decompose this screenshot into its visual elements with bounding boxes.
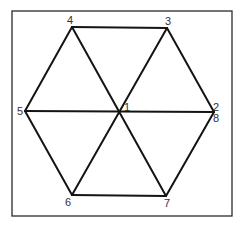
vertex-label-8: 8 xyxy=(213,112,219,124)
edge-2-7 xyxy=(166,112,214,196)
vertex-label-5: 5 xyxy=(17,105,23,117)
edge-4-3 xyxy=(72,27,167,28)
edges-group xyxy=(25,27,214,196)
edge-5-4 xyxy=(25,27,72,111)
vertex-label-3: 3 xyxy=(165,15,171,27)
vertex-label-1: 1 xyxy=(124,101,130,113)
vertex-label-6: 6 xyxy=(65,196,71,208)
edge-3-2 xyxy=(167,28,214,112)
diagram-frame xyxy=(12,11,232,216)
vertex-label-7: 7 xyxy=(164,197,170,209)
edge-7-6 xyxy=(72,195,166,196)
edge-6-5 xyxy=(25,111,72,195)
vertex-label-4: 4 xyxy=(67,14,73,26)
hexagon-diagram: 12345678 xyxy=(0,0,242,228)
